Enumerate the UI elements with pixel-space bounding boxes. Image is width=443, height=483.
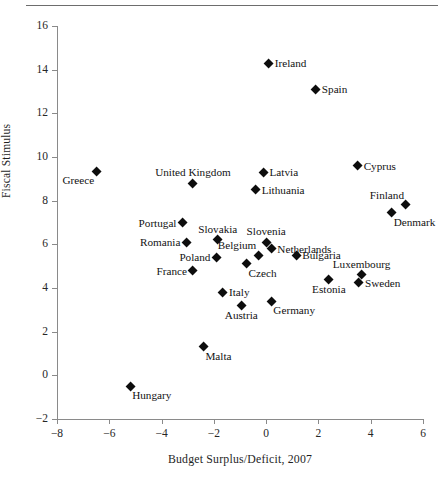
x-tick-label: 4 — [351, 427, 391, 439]
data-point-label: Belgium — [218, 240, 257, 251]
x-tick-label: 6 — [403, 427, 443, 439]
y-tick-label: 12 — [8, 107, 48, 119]
data-point-label: Romania — [140, 237, 180, 248]
data-point-label: United Kingdom — [155, 167, 231, 178]
data-point-label: Slovenia — [247, 226, 286, 237]
data-point-label: Luxembourg — [333, 259, 391, 270]
diamond-marker-icon — [211, 252, 221, 262]
data-point-label: Portugal — [139, 218, 177, 229]
y-tick-label: 2 — [8, 326, 48, 338]
x-tick-label: −4 — [142, 427, 182, 439]
y-tick-mark — [52, 113, 57, 114]
x-axis-line — [57, 419, 423, 420]
data-point-label: Slovakia — [198, 224, 237, 235]
data-point-label: France — [156, 266, 186, 277]
y-tick-mark — [52, 26, 57, 27]
diamond-marker-icon — [251, 185, 261, 195]
x-tick-mark — [371, 419, 372, 424]
y-tick-mark — [52, 157, 57, 158]
data-point-label: Latvia — [270, 167, 299, 178]
y-tick-label: 14 — [8, 64, 48, 76]
y-tick-label: 8 — [8, 195, 48, 207]
y-tick-label: 10 — [8, 151, 48, 163]
diamond-marker-icon — [181, 237, 191, 247]
diamond-marker-icon — [177, 217, 187, 227]
diamond-marker-icon — [353, 161, 363, 171]
diamond-marker-icon — [264, 58, 274, 68]
y-tick-mark — [52, 70, 57, 71]
data-point-label: Greece — [63, 175, 95, 186]
data-point-label: Spain — [322, 84, 347, 95]
diamond-marker-icon — [311, 84, 321, 94]
y-tick-label: −2 — [8, 413, 48, 425]
data-point-label: Ireland — [275, 58, 307, 69]
y-tick-label: 4 — [8, 282, 48, 294]
diamond-marker-icon — [258, 167, 268, 177]
y-axis-title: Fiscal Stimulus — [0, 78, 12, 198]
diamond-marker-icon — [253, 250, 263, 260]
x-tick-mark — [266, 419, 267, 424]
x-tick-mark — [109, 419, 110, 424]
diamond-marker-icon — [401, 200, 411, 210]
y-axis-line — [57, 26, 58, 420]
data-point-label: Estonia — [312, 284, 346, 295]
x-tick-label: −8 — [37, 427, 77, 439]
diamond-marker-icon — [354, 277, 364, 287]
data-point-label: Czech — [249, 268, 277, 279]
x-tick-label: −6 — [89, 427, 129, 439]
data-point-label: Lithuania — [262, 185, 305, 196]
x-tick-mark — [214, 419, 215, 424]
y-tick-mark — [52, 375, 57, 376]
x-tick-mark — [318, 419, 319, 424]
data-point-label: Hungary — [132, 390, 171, 401]
y-tick-label: 0 — [8, 369, 48, 381]
y-tick-label: 6 — [8, 238, 48, 250]
y-tick-mark — [52, 244, 57, 245]
x-tick-mark — [162, 419, 163, 424]
data-point-label: Poland — [179, 252, 210, 263]
y-tick-mark — [52, 332, 57, 333]
diamond-marker-icon — [188, 265, 198, 275]
y-tick-mark — [52, 288, 57, 289]
x-tick-label: 0 — [246, 427, 286, 439]
x-tick-mark — [57, 419, 58, 424]
y-tick-label: 16 — [8, 20, 48, 32]
data-point-label: Denmark — [394, 217, 436, 228]
x-axis-title: Budget Surplus/Deficit, 2007 — [57, 452, 423, 467]
diamond-marker-icon — [218, 287, 228, 297]
data-point-label: Malta — [205, 351, 231, 362]
x-tick-mark — [423, 419, 424, 424]
data-point-label: Finland — [370, 190, 404, 201]
data-point-label: Sweden — [365, 278, 400, 289]
data-point-label: Germany — [273, 305, 315, 316]
figure-container: 1614121086420−2 −8−6−4−20246 IrelandSpai… — [0, 0, 443, 483]
x-tick-label: 2 — [298, 427, 338, 439]
data-point-label: Italy — [229, 287, 250, 298]
data-point-label: Austria — [225, 310, 258, 321]
scatter-plot: 1614121086420−2 −8−6−4−20246 IrelandSpai… — [0, 0, 443, 483]
diamond-marker-icon — [188, 178, 198, 188]
x-tick-label: −2 — [194, 427, 234, 439]
y-tick-mark — [52, 201, 57, 202]
data-point-label: Cyprus — [364, 161, 396, 172]
